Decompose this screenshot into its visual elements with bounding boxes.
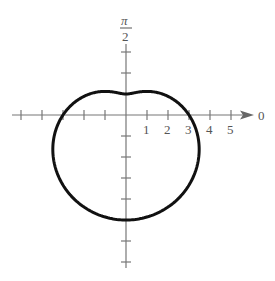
- tick-label-5: 5: [227, 122, 234, 137]
- vertical-axis-label-numerator: π: [121, 13, 128, 28]
- tick-label-4: 4: [206, 122, 213, 137]
- polar-graph: 0 π 2 1 2 3 4 5: [0, 0, 275, 281]
- tick-label-1: 1: [143, 122, 150, 137]
- tick-label-3: 3: [185, 122, 192, 137]
- tick-label-2: 2: [164, 122, 171, 137]
- polar-axis-label: 0: [258, 108, 265, 123]
- vertical-axis-label-denominator: 2: [122, 29, 129, 44]
